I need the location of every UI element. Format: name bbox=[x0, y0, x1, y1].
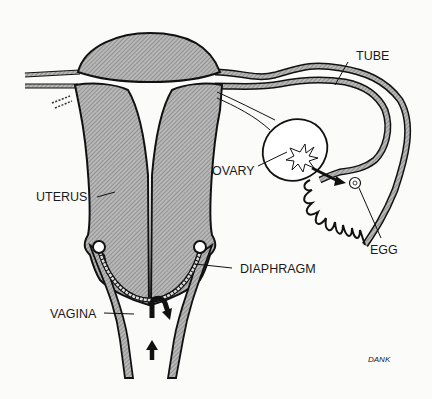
label-uterus: UTERUS bbox=[36, 190, 87, 204]
label-ovary: OVARY bbox=[212, 164, 255, 178]
uterus-right-wall bbox=[151, 84, 222, 305]
artist-signature: DANK bbox=[368, 355, 391, 364]
flow-arrows bbox=[146, 298, 172, 360]
egg bbox=[350, 178, 361, 189]
label-tube: TUBE bbox=[356, 49, 389, 63]
label-vagina: VAGINA bbox=[50, 307, 97, 321]
label-diaphragm: DIAPHRAGM bbox=[240, 262, 316, 276]
diagram-canvas: TUBE OVARY UTERUS EGG DIAPHRAGM VAGINA D… bbox=[0, 0, 432, 399]
label-egg: EGG bbox=[370, 243, 398, 257]
uterus-fundus bbox=[78, 33, 220, 82]
left-tube-stub bbox=[25, 72, 80, 108]
fimbriae bbox=[304, 180, 365, 245]
